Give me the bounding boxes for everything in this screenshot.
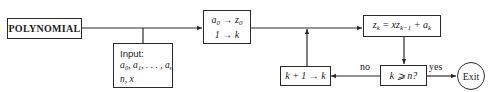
exit-label: Exit xyxy=(463,71,480,82)
compute-formula: zk = xzk−1 + ak xyxy=(373,19,431,34)
decision-label: k ⩾ n? xyxy=(390,70,417,82)
init-assign-z0: a0 → z0 xyxy=(212,14,243,29)
increment-node: k + 1 → k xyxy=(280,66,331,86)
input-coefficients: a0, a1, . . . , an xyxy=(120,60,166,75)
edge-label-yes: yes xyxy=(429,61,442,72)
input-header: Input: xyxy=(120,48,166,60)
exit-node: Exit xyxy=(457,62,485,90)
input-node: Input: a0, a1, . . . , an n, x xyxy=(113,43,173,88)
start-node: POLYNOMIAL xyxy=(7,18,82,39)
edge-label-no: no xyxy=(360,61,370,72)
start-label: POLYNOMIAL xyxy=(8,23,80,34)
init-node: a0 → z0 1 → k xyxy=(203,10,251,44)
polynomial-flowchart: POLYNOMIAL Input: a0, a1, . . . , an n, … xyxy=(0,0,494,92)
decision-node: k ⩾ n? xyxy=(380,65,427,86)
increment-label: k + 1 → k xyxy=(285,70,326,82)
init-assign-k: 1 → k xyxy=(215,29,239,41)
compute-node: zk = xzk−1 + ak xyxy=(363,15,441,37)
input-variables: n, x xyxy=(120,74,166,86)
